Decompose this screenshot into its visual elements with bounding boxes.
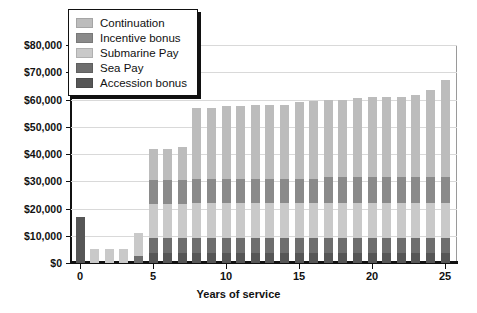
y-axis-tick-label: $20,000 (0, 203, 62, 215)
y-axis-tick (66, 127, 70, 128)
bar-segment (411, 177, 420, 203)
bar-segment (368, 203, 377, 238)
bar-segment (265, 238, 274, 253)
bar-group (105, 249, 114, 263)
bar-segment (265, 179, 274, 204)
bar-segment (353, 177, 362, 203)
legend-swatch-icon (76, 48, 93, 58)
bar-segment (426, 177, 435, 203)
bar-segment (295, 102, 304, 178)
bar-segment (426, 253, 435, 263)
y-axis-tick (66, 100, 70, 101)
bar-group (149, 149, 158, 263)
legend-swatch-icon (76, 63, 93, 73)
x-axis-tick (80, 264, 81, 269)
bar-segment (324, 100, 333, 178)
bar-segment (309, 203, 318, 238)
stacked-bar-chart: $80,000$70,000$60,000$50,000$40,000$30,0… (0, 0, 477, 313)
bar-segment (236, 253, 245, 263)
bar-segment (265, 203, 274, 238)
bar-group (222, 106, 231, 263)
bar-segment (222, 179, 231, 204)
bar-segment (192, 238, 201, 253)
bar-group (397, 97, 406, 263)
bar-segment (149, 149, 158, 180)
bar-segment (207, 238, 216, 253)
x-axis-tick-label: 5 (138, 270, 168, 282)
bar-segment (411, 95, 420, 177)
bar-segment (178, 180, 187, 205)
bar-group (207, 108, 216, 263)
bar-segment (295, 179, 304, 204)
bar-segment (192, 253, 201, 263)
legend-swatch-icon (76, 33, 93, 43)
y-axis-tick (66, 236, 70, 237)
bar-segment (441, 177, 450, 203)
bar-group (426, 90, 435, 263)
bar-segment (222, 253, 231, 263)
chart-legend: ContinuationIncentive bonusSubmarine Pay… (68, 9, 198, 96)
bar-segment (309, 253, 318, 263)
y-axis-tick-label: $50,000 (0, 121, 62, 133)
bar-segment (397, 97, 406, 177)
bar-segment (280, 253, 289, 263)
bar-segment (324, 253, 333, 263)
bar-segment (353, 253, 362, 263)
bar-segment (163, 238, 172, 253)
x-axis-tick-label: 15 (284, 270, 314, 282)
bar-segment (295, 253, 304, 263)
legend-item-label: Sea Pay (100, 62, 143, 74)
legend-item: Submarine Pay (76, 45, 187, 60)
bar-segment (236, 238, 245, 253)
bar-segment (149, 180, 158, 205)
bar-segment (265, 253, 274, 263)
bar-segment (76, 217, 85, 263)
bar-segment (368, 177, 377, 203)
bar-segment (236, 106, 245, 178)
bar-segment (163, 253, 172, 263)
bar-group (368, 97, 377, 263)
bar-segment (382, 177, 391, 203)
bar-group (134, 233, 143, 263)
x-axis-tick-label: 0 (65, 270, 95, 282)
bar-segment (265, 105, 274, 179)
bar-segment (368, 253, 377, 263)
x-axis-tick (372, 264, 373, 269)
bar-segment (382, 203, 391, 238)
bar-segment (426, 203, 435, 238)
bar-segment (397, 203, 406, 238)
bar-segment (426, 90, 435, 177)
bar-group (338, 100, 347, 263)
bar-segment (192, 179, 201, 204)
bar-segment (222, 106, 231, 178)
y-axis-tick-label: $10,000 (0, 230, 62, 242)
bar-segment (324, 177, 333, 203)
bar-segment (324, 203, 333, 238)
bar-segment (105, 249, 114, 263)
y-axis-tick-label: $60,000 (0, 94, 62, 106)
bar-segment (178, 238, 187, 253)
bar-segment (222, 238, 231, 253)
legend-item-label: Accession bonus (100, 77, 187, 89)
bar-segment (338, 203, 347, 238)
bar-segment (338, 253, 347, 263)
bar-segment (382, 253, 391, 263)
x-axis-tick (445, 264, 446, 269)
bar-segment (207, 203, 216, 238)
bar-segment (426, 238, 435, 253)
bar-group (382, 97, 391, 263)
bar-segment (178, 147, 187, 180)
bar-segment (309, 179, 318, 204)
bar-group (163, 149, 172, 263)
bar-group (90, 249, 99, 263)
bar-group (76, 217, 85, 263)
bar-group (309, 101, 318, 263)
bar-segment (251, 203, 260, 238)
legend-swatch-icon (76, 78, 93, 88)
bar-segment (178, 204, 187, 238)
bar-segment (411, 238, 420, 253)
bar-segment (280, 179, 289, 204)
legend-item: Sea Pay (76, 60, 187, 75)
bar-segment (222, 203, 231, 238)
bar-segment (338, 238, 347, 253)
